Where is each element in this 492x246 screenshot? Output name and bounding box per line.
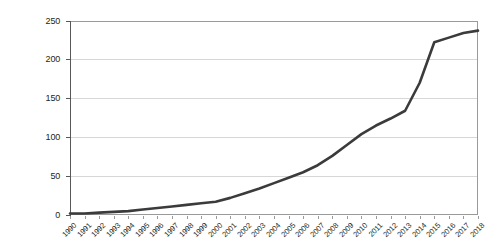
x-tick-mark	[289, 216, 290, 219]
y-tick-label: 50	[34, 171, 60, 181]
x-tick-mark	[172, 216, 173, 219]
y-tick-label: 100	[34, 132, 60, 142]
x-tick-mark	[449, 216, 450, 219]
x-tick-mark	[347, 216, 348, 219]
x-tick-mark	[70, 216, 71, 219]
x-tick-mark	[332, 216, 333, 219]
x-tick-mark	[274, 216, 275, 219]
y-tick-label: 200	[34, 54, 60, 64]
plot-area-border	[70, 21, 478, 216]
y-tick-label: 0	[34, 210, 60, 220]
x-tick-mark	[420, 216, 421, 219]
x-tick-mark	[434, 216, 435, 219]
x-tick-mark	[201, 216, 202, 219]
x-tick-mark	[230, 216, 231, 219]
x-tick-mark	[128, 216, 129, 219]
x-tick-mark	[303, 216, 304, 219]
x-tick-mark	[85, 216, 86, 219]
x-tick-mark	[478, 216, 479, 219]
x-tick-mark	[463, 216, 464, 219]
x-tick-mark	[143, 216, 144, 219]
y-axis-line	[70, 21, 71, 217]
x-tick-mark	[245, 216, 246, 219]
x-tick-mark	[391, 216, 392, 219]
x-tick-mark	[216, 216, 217, 219]
x-tick-mark	[99, 216, 100, 219]
x-tick-mark	[114, 216, 115, 219]
x-tick-mark	[318, 216, 319, 219]
x-tick-mark	[187, 216, 188, 219]
y-tick-label: 150	[34, 93, 60, 103]
chart-container: Cumulative number of transnational clima…	[0, 0, 492, 246]
x-tick-mark	[361, 216, 362, 219]
x-tick-mark	[405, 216, 406, 219]
y-tick-label: 250	[34, 16, 60, 26]
x-tick-mark	[157, 216, 158, 219]
x-tick-mark	[259, 216, 260, 219]
x-tick-mark	[376, 216, 377, 219]
